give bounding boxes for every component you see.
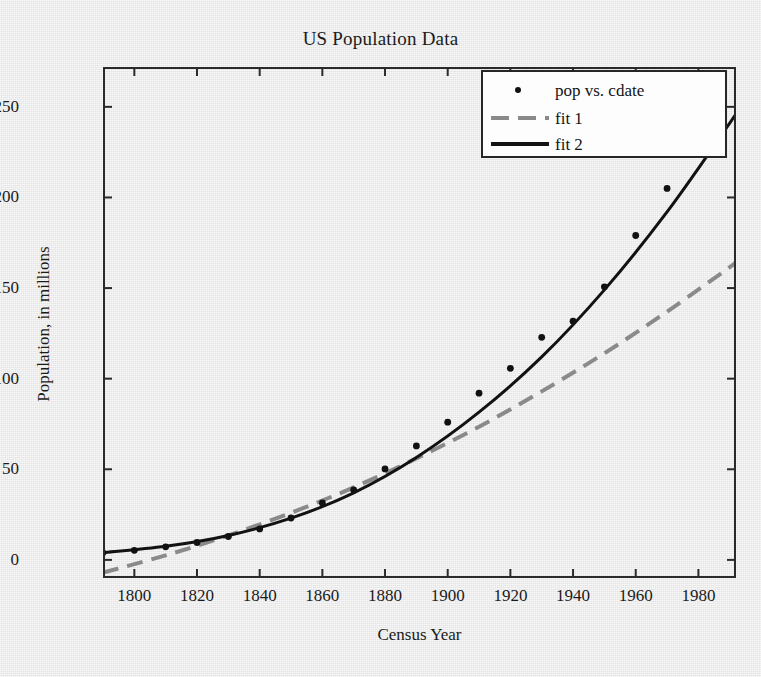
legend-item-pop-vs-cdate[interactable]: pop vs. cdate <box>483 76 729 104</box>
x-tick-label: 1800 <box>99 586 169 606</box>
x-tick-label: 1840 <box>225 586 295 606</box>
y-tick-label: 250 <box>0 97 19 117</box>
solid-line-icon <box>483 132 555 156</box>
x-tick-label: 1820 <box>162 586 232 606</box>
x-tick-label: 1920 <box>475 586 545 606</box>
legend-item-fit-2[interactable]: fit 2 <box>483 130 729 158</box>
y-tick-label: 0 <box>0 550 19 570</box>
legend-label: pop vs. cdate <box>555 82 644 99</box>
chart-title: US Population Data <box>0 28 761 50</box>
y-tick-label: 100 <box>0 369 19 389</box>
y-tick-label: 50 <box>0 459 19 479</box>
x-axis-label: Census Year <box>103 625 736 645</box>
chart-legend[interactable]: pop vs. cdate fit 1 fit 2 <box>481 70 727 158</box>
figure-canvas: US Population Data Population, in millio… <box>0 0 761 677</box>
scatter-dot-icon <box>483 78 555 102</box>
x-tick-label: 1940 <box>538 586 608 606</box>
x-tick-label: 1900 <box>413 586 483 606</box>
y-tick-label: 150 <box>0 278 19 298</box>
legend-item-fit-1[interactable]: fit 1 <box>483 104 729 132</box>
x-tick-label: 1960 <box>601 586 671 606</box>
legend-label: fit 2 <box>555 136 583 153</box>
legend-label: fit 1 <box>555 110 583 127</box>
x-tick-label: 1980 <box>663 586 733 606</box>
y-axis-label: Population, in millions <box>34 174 54 474</box>
y-tick-label: 200 <box>0 187 19 207</box>
x-tick-label: 1860 <box>287 586 357 606</box>
dashed-line-icon <box>483 106 555 130</box>
x-tick-label: 1880 <box>350 586 420 606</box>
